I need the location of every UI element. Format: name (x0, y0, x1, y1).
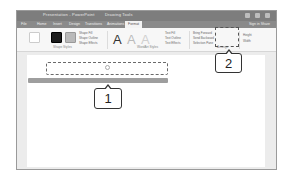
wordart-style-1[interactable]: A (113, 32, 122, 47)
shape-style-gray[interactable] (65, 32, 76, 43)
tab-transitions[interactable]: Transitions (85, 22, 102, 26)
size-height[interactable]: Height (243, 33, 252, 37)
bring-forward[interactable]: Bring Forward (193, 31, 212, 35)
send-backward[interactable]: Send Backward (193, 36, 214, 40)
window-title: Presentation - PowerPoint (43, 12, 94, 17)
group-separator (239, 31, 240, 49)
tab-insert[interactable]: Insert (53, 22, 62, 26)
callout-2: 2 (215, 53, 242, 73)
size-width[interactable]: Width (243, 39, 251, 43)
selection-pane[interactable]: Selection Pane (193, 41, 213, 45)
group-label-wordart: WordArt Styles (137, 45, 158, 49)
sign-in-share[interactable]: Sign in Share (249, 22, 270, 26)
context-title: Drawing Tools (105, 12, 133, 17)
text-outline[interactable]: Text Outline (165, 36, 181, 40)
shape-effects[interactable]: Shape Effects (79, 41, 98, 45)
text-fill[interactable]: Text Fill (165, 31, 175, 35)
minimize-icon[interactable] (245, 13, 250, 18)
tab-home[interactable]: Home (37, 22, 46, 26)
close-icon[interactable] (265, 13, 270, 18)
text-effects[interactable]: Text Effects (165, 41, 180, 45)
group-separator (107, 31, 108, 49)
tab-format[interactable]: Format (125, 21, 142, 28)
shape-style-black[interactable] (51, 32, 62, 43)
group-label-shape-styles: Shape Styles (53, 45, 72, 49)
gray-bar-shape[interactable] (28, 78, 168, 83)
title-bar: Presentation - PowerPoint Drawing Tools (17, 11, 276, 21)
shape-style-white[interactable] (29, 32, 40, 43)
group-separator (189, 31, 190, 49)
shape-fill[interactable]: Shape Fill (79, 31, 92, 35)
callout-1: 1 (94, 88, 122, 109)
maximize-icon[interactable] (255, 13, 260, 18)
wordart-style-2[interactable]: A (127, 32, 136, 47)
rotate-handle-icon[interactable] (105, 65, 110, 70)
shape-outline[interactable]: Shape Outline (79, 36, 98, 40)
tab-file[interactable]: File (21, 22, 27, 26)
selected-shape-placeholder[interactable] (46, 62, 168, 75)
tab-animations[interactable]: Animations (107, 22, 124, 26)
tab-design[interactable]: Design (69, 22, 80, 26)
arrange-highlight-box (215, 27, 239, 47)
